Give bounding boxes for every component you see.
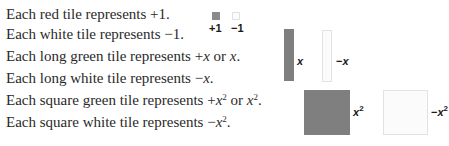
red-tile-description: Each red tile represents +1.	[6, 5, 170, 23]
text: .	[227, 114, 231, 130]
text: Each white tile represents	[6, 26, 164, 42]
positive-unit-tile	[212, 12, 220, 20]
value: −1.	[164, 26, 184, 42]
text: .	[258, 92, 262, 108]
text: .	[210, 70, 214, 86]
sign: −	[195, 70, 203, 86]
negative-x-label: −x	[336, 55, 349, 67]
exponent: 2	[359, 104, 363, 113]
positive-unit-label: +1	[209, 22, 222, 34]
negative-x-squared-label: −x2	[431, 106, 448, 118]
variable: x	[342, 55, 348, 67]
text: Each long white tile represents	[6, 70, 195, 86]
negative-unit-tile	[232, 12, 240, 20]
variable: x	[297, 55, 303, 67]
square-green-tile-description: Each square green tile represents +x2 or…	[6, 91, 262, 109]
positive-x-squared-label: x2	[353, 106, 364, 118]
sign: −	[207, 114, 215, 130]
sign: +	[195, 48, 203, 64]
text: Each square white tile represents	[6, 114, 207, 130]
text: or	[227, 92, 247, 108]
long-green-tile-description: Each long green tile represents +x or x.	[6, 47, 240, 65]
positive-x-tile	[284, 29, 294, 81]
text: Each red tile represents	[6, 6, 150, 22]
negative-x-tile	[322, 30, 332, 82]
text: .	[236, 48, 240, 64]
exponent: 2	[444, 104, 448, 113]
positive-x-label: x	[297, 55, 303, 67]
negative-x-squared-tile	[383, 90, 428, 135]
white-tile-description: Each white tile represents −1.	[6, 25, 184, 43]
variable: x	[203, 48, 210, 64]
square-white-tile-description: Each square white tile represents −x2.	[6, 113, 231, 131]
text: or	[210, 48, 230, 64]
text: Each long green tile represents	[6, 48, 195, 64]
text: Each square green tile represents	[6, 92, 207, 108]
long-white-tile-description: Each long white tile represents −x.	[6, 69, 214, 87]
negative-unit-label: −1	[231, 22, 244, 34]
variable: x	[203, 70, 210, 86]
value: +1.	[150, 6, 170, 22]
sign: +	[207, 92, 215, 108]
positive-x-squared-tile	[304, 90, 350, 135]
